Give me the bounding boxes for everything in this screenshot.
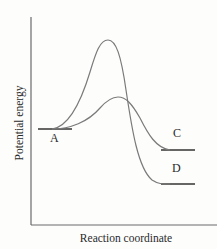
curve-high-barrier-a-to-d (52, 40, 170, 184)
state-label-a: A (50, 132, 59, 144)
energy-diagram: A C D Potential energy Reaction coordina… (0, 0, 217, 249)
y-axis-title: Potential energy (13, 86, 25, 161)
state-label-c: C (173, 127, 181, 139)
state-label-d: D (172, 162, 181, 174)
energy-diagram-plot (0, 0, 217, 249)
curve-low-barrier-a-to-c (52, 97, 170, 150)
x-axis-title: Reaction coordinate (80, 232, 172, 244)
